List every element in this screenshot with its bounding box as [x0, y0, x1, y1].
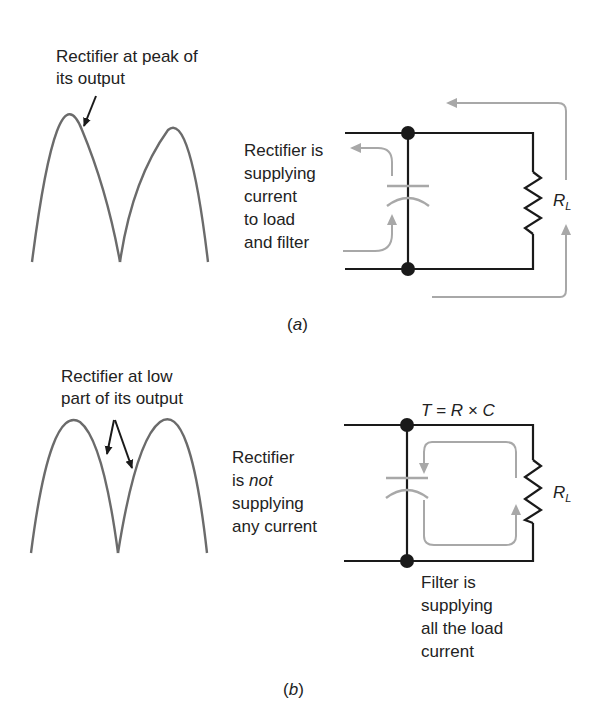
- current-arrow-to-capacitor: [343, 216, 392, 251]
- low-label-line2: part of its output: [61, 388, 183, 409]
- current-arrow-load-return: [432, 226, 566, 297]
- time-constant-label: T = R × C: [421, 400, 495, 421]
- low-pointer-arrow-right: [115, 420, 132, 468]
- discharge-current-loop-bottom: [424, 500, 516, 545]
- current-arrow-load-top: [448, 103, 566, 180]
- junction-node-bottom: [401, 262, 415, 276]
- rectifier-supplying-line4: to load: [244, 209, 295, 230]
- peak-pointer-arrow: [84, 96, 96, 126]
- rectifier-supplying-line2: supplying: [244, 163, 316, 184]
- peak-label-line2: its output: [56, 68, 125, 89]
- junction-node-top: [400, 418, 414, 432]
- not-supplying-line1: Rectifier: [232, 447, 294, 468]
- filter-supplying-line1: Filter is: [421, 572, 476, 593]
- not-supplying-line2: is not: [232, 470, 273, 491]
- rectifier-supplying-line1: Rectifier is: [244, 140, 323, 161]
- load-resistor-label: RL: [553, 482, 571, 509]
- panel-a-waveform: [32, 96, 208, 262]
- not-supplying-line3: supplying: [232, 493, 304, 514]
- resistor-rl: [525, 172, 541, 234]
- low-pointer-arrow-left: [107, 420, 114, 454]
- panel-b-waveform: [31, 419, 207, 553]
- filter-supplying-line3: all the load: [421, 618, 503, 639]
- filter-supplying-line2: supplying: [421, 595, 493, 616]
- not-supplying-line4: any current: [232, 516, 317, 537]
- load-resistor-label: RL: [553, 190, 571, 217]
- rectifier-supplying-line5: and filter: [244, 232, 309, 253]
- current-arrow-from-capacitor: [352, 148, 392, 176]
- junction-node-bottom: [400, 554, 414, 568]
- resistor-rl: [525, 460, 541, 523]
- panel-a-circuit: [343, 103, 566, 297]
- panel-b-circuit: [344, 418, 541, 568]
- panel-a-caption: (a): [287, 315, 308, 335]
- peak-label-line1: Rectifier at peak of: [56, 46, 198, 67]
- discharge-current-loop-top: [424, 442, 516, 478]
- low-label-line1: Rectifier at low: [61, 366, 172, 387]
- filter-supplying-line4: current: [421, 641, 474, 662]
- panel-b-caption: (b): [283, 680, 304, 700]
- rectifier-supplying-line3: current: [244, 186, 297, 207]
- rectifier-filter-diagram: [0, 0, 603, 725]
- junction-node-top: [401, 126, 415, 140]
